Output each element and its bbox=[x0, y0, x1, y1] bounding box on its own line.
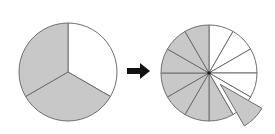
diagram-canvas bbox=[0, 0, 275, 134]
center-dot bbox=[207, 71, 211, 75]
right-pie-twelfths bbox=[161, 25, 262, 126]
fraction-diagram bbox=[0, 0, 275, 134]
arrow-right-icon bbox=[127, 63, 150, 79]
left-pie-thirds bbox=[19, 23, 117, 121]
